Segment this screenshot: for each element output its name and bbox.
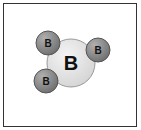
bonded-atom-label: B	[94, 45, 101, 56]
molecule-diagram: B B B B	[0, 0, 141, 130]
bonded-atom-label: B	[42, 76, 49, 87]
bonded-atom: B	[86, 38, 110, 62]
central-atom-label: B	[64, 52, 78, 74]
bonded-atom: B	[34, 69, 58, 93]
bonded-atom: B	[36, 31, 60, 55]
bonded-atom-label: B	[44, 38, 51, 49]
